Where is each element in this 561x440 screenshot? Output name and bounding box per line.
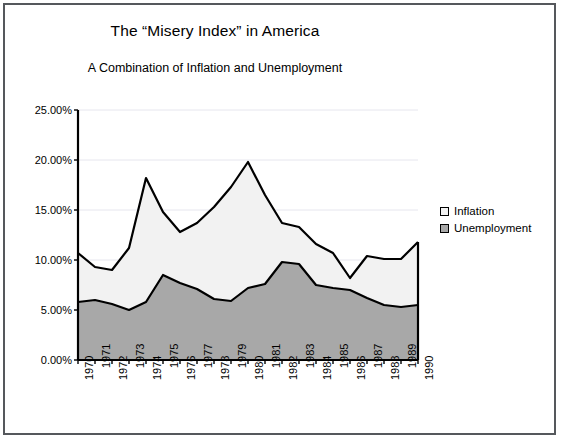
unemployment-swatch-icon — [440, 224, 449, 233]
inflation-swatch-icon — [440, 207, 449, 216]
legend-label-unemployment: Unemployment — [454, 223, 531, 235]
legend-item-unemployment: Unemployment — [440, 220, 531, 237]
x-tick-label: 1975 — [168, 344, 180, 368]
x-tick-label: 1989 — [406, 344, 418, 368]
x-tick-label: 1980 — [253, 356, 265, 380]
x-tick-label: 1973 — [134, 344, 146, 368]
x-tick-label: 1976 — [185, 356, 197, 380]
x-tick-label: 1971 — [100, 344, 112, 368]
x-tick-label: 1983 — [304, 344, 316, 368]
x-tick-label: 1981 — [270, 344, 282, 368]
x-tick-label: 1970 — [83, 356, 95, 380]
x-tick-label: 1986 — [355, 356, 367, 380]
x-tick-label: 1984 — [321, 356, 333, 380]
x-tick-label: 1987 — [372, 344, 384, 368]
legend-item-inflation: Inflation — [440, 203, 531, 220]
chart-screenshot: The “Misery Index” in America A Combinat… — [0, 0, 561, 440]
x-tick-label: 1972 — [117, 356, 129, 380]
legend-label-inflation: Inflation — [454, 206, 494, 218]
x-tick-label: 1974 — [151, 356, 163, 380]
x-tick-label: 1988 — [389, 356, 401, 380]
x-tick-label: 1979 — [236, 344, 248, 368]
x-tick-label: 1990 — [423, 356, 435, 380]
x-tick-label: 1978 — [219, 356, 231, 380]
x-tick-label: 1977 — [202, 344, 214, 368]
chart-legend: Inflation Unemployment — [440, 203, 531, 237]
x-tick-label: 1982 — [287, 356, 299, 380]
x-tick-label: 1985 — [338, 344, 350, 368]
